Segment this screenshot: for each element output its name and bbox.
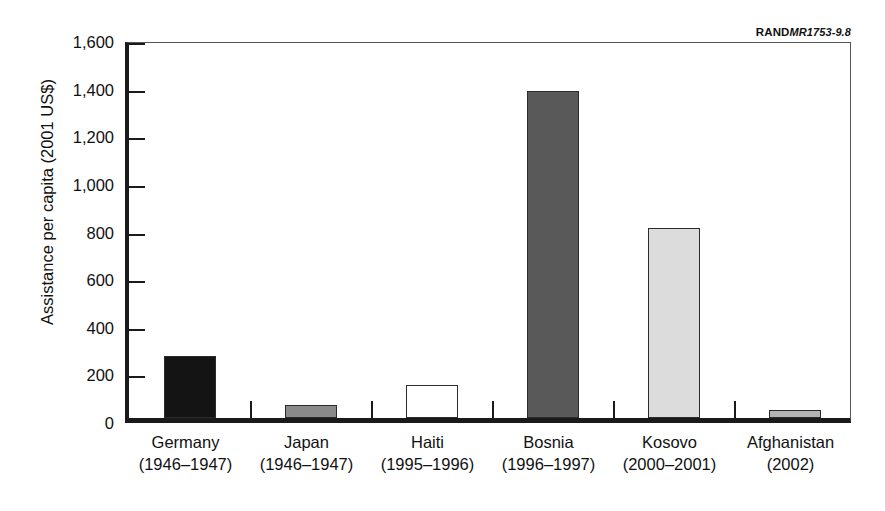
bars-container <box>129 43 850 418</box>
x-axis-category-haiti: Haiti(1995–1996) <box>357 432 498 476</box>
x-axis-category-kosovo: Kosovo(2000–2001) <box>599 432 740 476</box>
y-axis-tick-label: 400 <box>50 320 114 337</box>
y-axis-tick-label: 1,600 <box>50 34 114 51</box>
x-axis-category-japan: Japan(1946–1947) <box>236 432 377 476</box>
category-name: Germany <box>115 432 256 454</box>
y-axis-tick-label: 1,200 <box>50 129 114 146</box>
y-axis-tick-labels: 02004006008001,0001,2001,4001,600 <box>46 0 114 511</box>
category-name: Afghanistan <box>720 432 861 454</box>
x-axis-category-germany: Germany(1946–1947) <box>115 432 256 476</box>
source-brand: RAND <box>756 26 790 38</box>
bar-afghanistan <box>769 410 821 418</box>
bar-japan <box>285 405 337 418</box>
plot-area <box>125 42 851 423</box>
y-axis-tick-label: 0 <box>50 415 114 432</box>
x-axis-category-afghanistan: Afghanistan(2002) <box>720 432 861 476</box>
category-period: (1946–1947) <box>115 454 256 476</box>
y-axis-tick-label: 1,400 <box>50 82 114 99</box>
category-name: Haiti <box>357 432 498 454</box>
y-axis-tick-label: 200 <box>50 367 114 384</box>
bar-chart-figure: RANDMR1753-9.8 Assistance per capita (20… <box>0 0 885 511</box>
category-period: (2002) <box>720 454 861 476</box>
y-axis-tick-label: 1,000 <box>50 177 114 194</box>
x-axis-category-labels: Germany(1946–1947)Japan(1946–1947)Haiti(… <box>125 432 851 507</box>
source-credit: RANDMR1753-9.8 <box>756 26 851 38</box>
category-name: Japan <box>236 432 377 454</box>
category-period: (1946–1947) <box>236 454 377 476</box>
category-period: (1996–1997) <box>478 454 619 476</box>
x-axis-category-bosnia: Bosnia(1996–1997) <box>478 432 619 476</box>
bar-kosovo <box>648 228 700 419</box>
category-period: (2000–2001) <box>599 454 740 476</box>
category-period: (1995–1996) <box>357 454 498 476</box>
bar-bosnia <box>527 91 579 418</box>
source-document-id: MR1753-9.8 <box>789 26 851 38</box>
category-name: Bosnia <box>478 432 619 454</box>
y-axis-tick-label: 800 <box>50 225 114 242</box>
bar-germany <box>164 356 216 418</box>
bar-haiti <box>406 385 458 418</box>
y-axis-tick-label: 600 <box>50 272 114 289</box>
category-name: Kosovo <box>599 432 740 454</box>
